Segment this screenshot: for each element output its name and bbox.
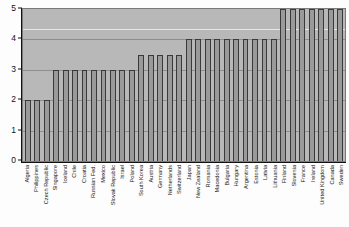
bar-cell[interactable] [32,9,41,161]
bar[interactable] [195,39,201,161]
x-label-cell: Iceland [60,164,70,226]
bar-cell[interactable] [298,9,307,161]
x-label-cell: Bulgaria [222,164,232,226]
bar[interactable] [271,39,277,161]
bar-cell[interactable] [127,9,136,161]
bar[interactable] [53,70,59,161]
bar[interactable] [167,55,173,161]
x-axis-tick-label: Hungary [233,165,239,186]
bar-cell[interactable] [175,9,184,161]
bar-cell[interactable] [165,9,174,161]
bar-cell[interactable] [222,9,231,161]
plot-area [22,8,346,162]
bar-cell[interactable] [42,9,51,161]
x-label-cell: Latvia [260,164,270,226]
bar-cell[interactable] [118,9,127,161]
bar-cell[interactable] [250,9,259,161]
x-axis-tick-label: Slovak Republic [110,165,116,205]
x-axis-tick-label: Switzerland [176,165,182,194]
bar[interactable] [129,70,135,161]
bar-cell[interactable] [260,9,269,161]
bar-cell[interactable] [288,9,297,161]
x-axis-tick-label: South Korea [138,165,144,196]
x-axis-tick-label: Netherlands [167,165,173,195]
x-axis-labels: AlgeriaPhilippinesCzech RepublicSingapor… [22,164,346,226]
bar[interactable] [299,9,305,161]
bar-cell[interactable] [99,9,108,161]
x-axis-tick-label: Israel [119,165,125,179]
x-label-cell: Lithuania [270,164,280,226]
bar-cell[interactable] [108,9,117,161]
bar[interactable] [119,70,125,161]
bar[interactable] [91,70,97,161]
bar-cell[interactable] [335,9,344,161]
x-axis-tick-label: Russian Fed. [90,165,96,198]
bar-cell[interactable] [279,9,288,161]
x-axis-tick-label: Macedonia [214,165,220,192]
x-axis-tick-label: Chile [71,165,77,178]
x-label-cell: Austria [146,164,156,226]
bar[interactable] [138,55,144,161]
x-label-cell: Israel [117,164,127,226]
bar-cell[interactable] [317,9,326,161]
bar[interactable] [309,9,315,161]
bar-cell[interactable] [80,9,89,161]
bar-cell[interactable] [212,9,221,161]
x-label-cell: Mexico [98,164,108,226]
bar-cell[interactable] [241,9,250,161]
bar[interactable] [262,39,268,161]
bar[interactable] [205,39,211,161]
bar[interactable] [44,100,50,161]
bar[interactable] [328,9,334,161]
x-label-cell: Estonia [251,164,261,226]
bar[interactable] [25,100,31,161]
x-label-cell: Philippines [32,164,42,226]
x-label-cell: Macedonia [213,164,223,226]
bar[interactable] [63,70,69,161]
bar[interactable] [82,70,88,161]
x-label-cell: Japan [184,164,194,226]
bar[interactable] [280,9,286,161]
bar-cell[interactable] [231,9,240,161]
bar[interactable] [34,100,40,161]
x-label-cell: Singapore [51,164,61,226]
bar[interactable] [224,39,230,161]
x-axis-tick-label: United Kingdom [319,165,325,205]
bar-cell[interactable] [326,9,335,161]
bar[interactable] [110,70,116,161]
bar-cell[interactable] [51,9,60,161]
bar[interactable] [243,39,249,161]
bar[interactable] [148,55,154,161]
bar[interactable] [318,9,324,161]
x-label-cell: South Korea [136,164,146,226]
bar-cell[interactable] [269,9,278,161]
bar-cell[interactable] [23,9,32,161]
bar[interactable] [176,55,182,161]
x-label-cell: Germany [155,164,165,226]
x-label-cell: Slovak Republic [108,164,118,226]
x-axis-tick-label: Ireland [310,165,316,182]
bar-cell[interactable] [203,9,212,161]
bar[interactable] [290,9,296,161]
x-axis-tick-label: Slovenia [291,165,297,186]
x-axis-tick-label: Estonia [253,165,259,184]
bar-cell[interactable] [307,9,316,161]
bar-cell[interactable] [89,9,98,161]
bar-cell[interactable] [70,9,79,161]
bar[interactable] [157,55,163,161]
bar-cell[interactable] [137,9,146,161]
bar[interactable] [233,39,239,161]
bar-cell[interactable] [193,9,202,161]
bar-cell[interactable] [61,9,70,161]
bar-cell[interactable] [184,9,193,161]
bar-cell[interactable] [156,9,165,161]
x-label-cell: Canada [327,164,337,226]
bar-cell[interactable] [146,9,155,161]
bar[interactable] [186,39,192,161]
bar[interactable] [72,70,78,161]
bar[interactable] [214,39,220,161]
bar[interactable] [252,39,258,161]
bar[interactable] [337,9,343,161]
x-label-cell: Romania [203,164,213,226]
bar[interactable] [101,70,107,161]
